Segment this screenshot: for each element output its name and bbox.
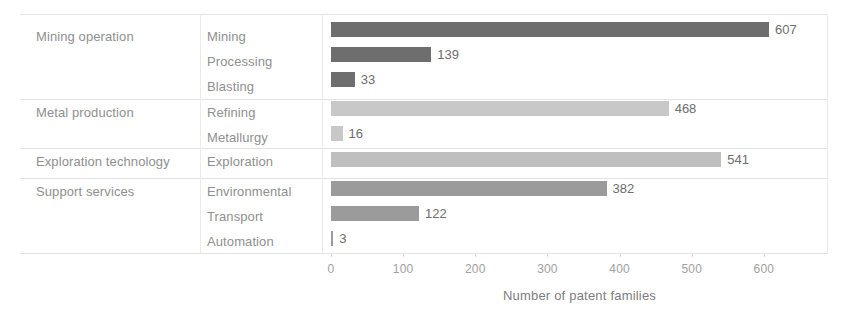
subcategory-label-blasting: Blasting [207, 79, 254, 94]
subcategory-label-environmental: Environmental [207, 184, 291, 199]
x-tick-label-200: 200 [455, 262, 495, 276]
rule-group-2-3 [20, 148, 828, 149]
bar-value-metallurgy: 16 [349, 126, 363, 141]
bar-automation [331, 231, 333, 246]
bar-environmental [331, 181, 607, 196]
bar-mining [331, 22, 769, 37]
rule-top [20, 14, 828, 15]
bar-value-transport: 122 [425, 206, 447, 221]
x-tick-mark-300 [547, 253, 548, 257]
subcategory-label-refining: Refining [207, 105, 256, 120]
bar-transport [331, 206, 419, 221]
rule-group-1-2 [20, 99, 828, 100]
x-axis-title: Number of patent families [331, 288, 828, 303]
x-tick-mark-100 [403, 253, 404, 257]
bar-processing [331, 47, 431, 62]
x-tick-label-0: 0 [311, 262, 351, 276]
rule-bottom [20, 253, 828, 254]
bar-value-exploration: 541 [727, 152, 749, 167]
x-tick-mark-200 [475, 253, 476, 257]
group-label-support-services: Support services [36, 184, 134, 199]
subcategory-label-automation: Automation [207, 234, 274, 249]
plot-right-border [827, 14, 828, 253]
x-tick-mark-600 [764, 253, 765, 257]
x-tick-label-400: 400 [600, 262, 640, 276]
bar-blasting [331, 72, 355, 87]
group-label-exploration-technology: Exploration technology [36, 154, 170, 169]
x-tick-label-300: 300 [527, 262, 567, 276]
rule-group-3-4 [20, 178, 828, 179]
bar-value-refining: 468 [675, 101, 697, 116]
x-tick-label-600: 600 [744, 262, 784, 276]
x-tick-mark-0 [331, 253, 332, 257]
group-label-metal-production: Metal production [36, 105, 134, 120]
column-divider-sub [322, 14, 323, 253]
subcategory-label-mining: Mining [207, 29, 246, 44]
bar-refining [331, 101, 669, 116]
bar-value-automation: 3 [339, 231, 346, 246]
bar-value-mining: 607 [775, 22, 797, 37]
group-label-mining-operation: Mining operation [36, 29, 134, 44]
x-tick-label-100: 100 [383, 262, 423, 276]
column-divider-group [200, 14, 201, 253]
subcategory-label-metallurgy: Metallurgy [207, 130, 268, 145]
x-tick-mark-500 [692, 253, 693, 257]
patent-families-bar-chart: Mining operation Metal production Explor… [0, 0, 857, 321]
subcategory-label-processing: Processing [207, 54, 272, 69]
subcategory-label-transport: Transport [207, 209, 263, 224]
bar-value-environmental: 382 [613, 181, 635, 196]
bar-exploration [331, 152, 721, 167]
x-tick-mark-400 [620, 253, 621, 257]
bar-value-processing: 139 [437, 47, 459, 62]
x-tick-label-500: 500 [672, 262, 712, 276]
bar-value-blasting: 33 [361, 72, 375, 87]
bar-metallurgy [331, 126, 343, 141]
subcategory-label-exploration: Exploration [207, 154, 273, 169]
